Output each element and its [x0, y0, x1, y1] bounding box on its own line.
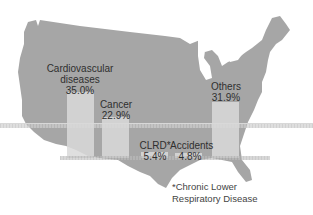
horizontal-band: [0, 124, 313, 128]
others-value: 31.9%: [206, 92, 246, 103]
us-map-silhouette: [0, 0, 313, 215]
others-name: Others: [206, 81, 246, 92]
footnote-line1: *Chronic Lower: [172, 181, 258, 193]
label-cancer: Cancer 22.9%: [96, 99, 136, 121]
accidents-value: 4.8%: [170, 151, 210, 162]
footnote-line2: Respiratory Disease: [172, 193, 258, 205]
footnote: *Chronic Lower Respiratory Disease: [172, 181, 258, 205]
clrd-value: 5.4%: [137, 151, 173, 162]
label-accidents: Accidents 4.8%: [170, 140, 210, 162]
clrd-name: CLRD*: [137, 140, 173, 151]
accidents-name: Accidents: [170, 140, 210, 151]
bar-cancer: [102, 117, 129, 158]
bar-others: [212, 102, 239, 158]
label-clrd: CLRD* 5.4%: [137, 140, 173, 162]
cardiovascular-name-line1: Cardiovascular: [46, 63, 114, 74]
cancer-name: Cancer: [96, 99, 136, 110]
label-cardiovascular: Cardiovascular diseases 35.0%: [46, 63, 114, 96]
bar-cardiovascular: [67, 92, 94, 158]
chart-figure: Cardiovascular diseases 35.0% Cancer 22.…: [0, 0, 313, 215]
label-others: Others 31.9%: [206, 81, 246, 103]
cardiovascular-name-line2: diseases: [46, 74, 114, 85]
cardiovascular-value: 35.0%: [46, 85, 114, 96]
cancer-value: 22.9%: [96, 110, 136, 121]
